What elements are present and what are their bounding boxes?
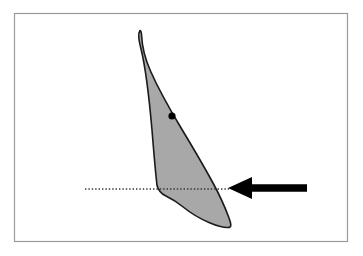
reference-point-marker bbox=[168, 112, 175, 119]
arrow-shaft bbox=[250, 184, 307, 192]
figure-container: Outline diagram with reference line and … bbox=[0, 0, 363, 256]
figure-canvas bbox=[0, 0, 363, 256]
